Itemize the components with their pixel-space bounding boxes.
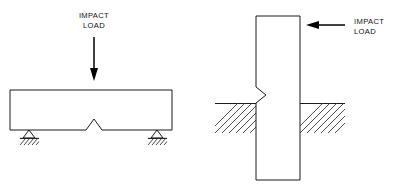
ground-right-hatching <box>293 103 365 133</box>
beam-support-right <box>148 130 170 145</box>
beam-load-arrow <box>90 37 98 81</box>
impact-load-diagram: IMPACT LOAD <box>0 0 397 190</box>
beam-load-label-line2: LOAD <box>83 21 105 30</box>
support-right-hatching <box>148 138 170 145</box>
beam-support-left <box>20 130 42 145</box>
ground-right-block <box>293 103 365 133</box>
support-left-hatching <box>20 138 42 145</box>
post-load-label-line2: LOAD <box>354 27 376 36</box>
post-load-arrow <box>306 21 345 29</box>
post-outline <box>256 16 300 180</box>
beam-outline <box>10 90 172 130</box>
diagram-canvas: IMPACT LOAD <box>0 0 397 190</box>
beam-panel: IMPACT LOAD <box>10 11 172 145</box>
post-panel: IMPACT LOAD <box>208 16 384 180</box>
beam-load-label-line1: IMPACT <box>79 11 109 20</box>
post-load-label-line1: IMPACT <box>354 17 384 26</box>
